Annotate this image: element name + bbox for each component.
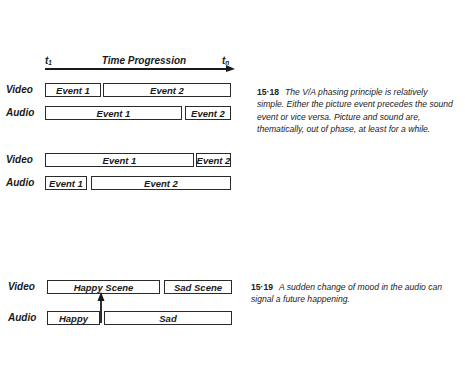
time-arrow-icon <box>40 63 240 75</box>
caption-15-18: 15·18The V/A phasing principle is relati… <box>257 86 457 135</box>
audio-event-1: Event 1 <box>45 176 87 190</box>
audio-event-1: Event 1 <box>45 106 182 120</box>
audio-sad: Sad <box>104 311 232 325</box>
video-event-1: Event 1 <box>45 83 101 97</box>
video-event-1: Event 1 <box>45 153 194 167</box>
audio-row-label: Audio <box>6 176 34 190</box>
video-event-2: Event 2 <box>103 83 231 97</box>
video-row-label: Video <box>6 83 33 97</box>
video-sad-scene: Sad Scene <box>164 280 232 294</box>
audio-row-label: Audio <box>8 311 36 325</box>
video-row-label: Video <box>8 280 35 294</box>
audio-event-2: Event 2 <box>91 176 231 190</box>
audio-event-2: Event 2 <box>185 106 231 120</box>
audio-row-label: Audio <box>6 106 34 120</box>
video-row-label: Video <box>6 153 33 167</box>
video-event-2: Event 2 <box>196 153 231 167</box>
caption-15-19: 15·19A sudden change of mood in the audi… <box>251 281 457 306</box>
audio-happy: Happy <box>47 311 100 325</box>
